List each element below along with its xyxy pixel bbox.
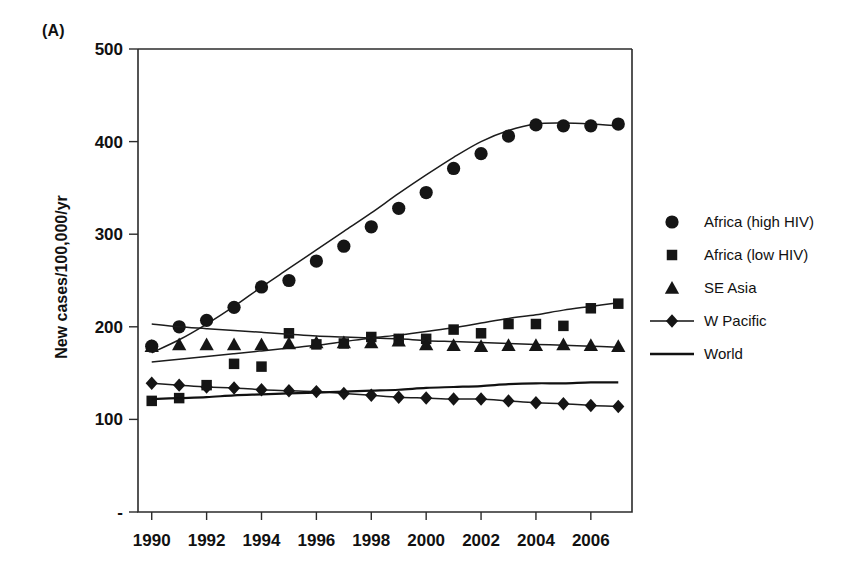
data-point-circle	[282, 274, 295, 287]
legend-label: SE Asia	[704, 279, 757, 296]
y-tick-label: 200	[95, 318, 123, 337]
data-point-triangle	[501, 338, 515, 351]
data-point-diamond	[228, 381, 240, 394]
data-point-diamond	[393, 390, 405, 403]
data-point-triangle	[584, 338, 598, 351]
y-tick-label: 300	[95, 225, 123, 244]
data-point-triangle	[556, 337, 570, 350]
data-point-square	[146, 396, 156, 406]
x-tick-label: 1990	[133, 531, 171, 550]
data-point-diamond	[283, 384, 295, 397]
legend-item[interactable]: Africa (high HIV)	[665, 213, 814, 230]
legend-label: Africa (high HIV)	[704, 213, 814, 230]
data-point-diamond	[448, 392, 460, 405]
data-point-diamond	[475, 392, 487, 405]
data-point-circle	[584, 119, 597, 132]
data-point-circle	[365, 220, 378, 233]
x-tick-label: 1992	[188, 531, 226, 550]
data-point-circle	[420, 186, 433, 199]
series-w-pacific	[146, 377, 625, 414]
data-point-diamond	[173, 378, 185, 391]
data-point-circle	[529, 118, 542, 131]
legend-item[interactable]: SE Asia	[665, 279, 757, 296]
series-line	[152, 383, 619, 406]
x-tick-label: 1998	[352, 531, 390, 550]
legend-marker-diamond	[666, 314, 678, 327]
data-point-circle	[392, 202, 405, 215]
y-tick-label: 100	[95, 410, 123, 429]
series-fit-line	[152, 324, 619, 347]
data-point-circle	[255, 280, 268, 293]
legend-label: World	[704, 345, 743, 362]
figure-panel: (A) New cases/100,000/yr -10020030040050…	[0, 0, 860, 569]
data-series	[145, 117, 626, 413]
data-point-triangle	[446, 338, 460, 351]
series-fit-line	[152, 303, 619, 362]
legend-label: W Pacific	[704, 312, 767, 329]
data-point-circle	[502, 129, 515, 142]
legend-item[interactable]: W Pacific	[650, 312, 767, 329]
series-fit-line	[152, 123, 619, 353]
data-point-square	[448, 324, 458, 334]
x-tick-label: 1996	[297, 531, 335, 550]
chart-canvas: -100200300400500 19901992199419961998200…	[0, 0, 860, 569]
data-point-circle	[227, 301, 240, 314]
data-point-diamond	[502, 394, 514, 407]
data-point-square	[613, 298, 623, 308]
data-point-diamond	[420, 391, 432, 404]
data-point-diamond	[585, 399, 597, 412]
legend-item[interactable]: Africa (low HIV)	[667, 246, 808, 263]
data-point-diamond	[557, 397, 569, 410]
legend-item[interactable]: World	[650, 345, 743, 362]
legend-label: Africa (low HIV)	[704, 246, 808, 263]
x-tick-label: 2004	[517, 531, 555, 550]
x-tick-label: 2006	[572, 531, 610, 550]
data-point-triangle	[611, 339, 625, 352]
data-point-circle	[474, 147, 487, 160]
data-point-diamond	[530, 396, 542, 409]
legend-marker-square	[667, 250, 677, 260]
x-tick-label: 2000	[407, 531, 445, 550]
series-africa-high-hiv	[145, 117, 625, 352]
data-point-diamond	[146, 377, 158, 390]
data-point-diamond	[338, 387, 350, 400]
data-point-circle	[200, 314, 213, 327]
y-tick-label: 400	[95, 133, 123, 152]
data-point-square	[586, 303, 596, 313]
x-tick-label: 2002	[462, 531, 500, 550]
legend-marker-circle	[665, 215, 678, 228]
x-tick-label: 1994	[243, 531, 281, 550]
data-point-circle	[447, 162, 460, 175]
axes	[138, 49, 632, 512]
data-point-triangle	[199, 337, 213, 350]
chart-legend: Africa (high HIV)Africa (low HIV)SE Asia…	[650, 213, 814, 362]
data-point-circle	[337, 240, 350, 253]
data-point-circle	[612, 117, 625, 130]
data-point-triangle	[227, 337, 241, 350]
data-point-triangle	[254, 337, 268, 350]
series-se-asia	[145, 324, 626, 352]
x-axis-ticks: 199019921994199619982000200220042006	[133, 512, 610, 550]
data-point-circle	[310, 254, 323, 267]
y-tick-label: -	[117, 503, 123, 522]
data-point-square	[558, 321, 568, 331]
data-point-triangle	[172, 337, 186, 350]
data-point-circle	[557, 119, 570, 132]
data-point-square	[503, 319, 513, 329]
y-axis-ticks: -100200300400500	[95, 40, 138, 522]
y-tick-label: 500	[95, 40, 123, 59]
legend-marker-triangle	[665, 281, 679, 294]
data-point-square	[256, 361, 266, 371]
data-point-square	[229, 359, 239, 369]
data-point-triangle	[474, 339, 488, 352]
data-point-square	[531, 319, 541, 329]
data-point-diamond	[612, 400, 624, 413]
data-point-square	[476, 328, 486, 338]
